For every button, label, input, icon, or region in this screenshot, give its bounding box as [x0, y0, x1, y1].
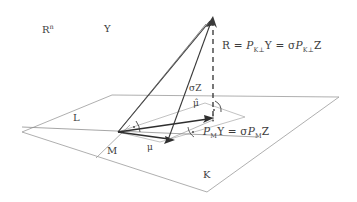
sigma-symbol-2: σ — [240, 125, 247, 137]
plane-k-parallelogram — [22, 95, 339, 192]
label-subspace-m: M — [107, 146, 117, 156]
label-mu-hat: μ̂ — [193, 99, 199, 108]
label-vector-y: Y — [104, 24, 111, 34]
subscript-m-2: M — [255, 132, 262, 140]
subscript-kperp-2: K⊥ — [303, 46, 314, 54]
label-fitted-equation: PMY = σPMZ — [203, 126, 269, 140]
vector-mu-hat-shaft — [118, 119, 208, 132]
equals-sign-1: = — [234, 39, 243, 51]
right-angle-dot-origin — [133, 126, 135, 128]
label-residual-equation: R = PK⊥Y = σPK⊥Z — [222, 40, 322, 54]
ambient-space-exponent: n — [50, 23, 54, 31]
label-subspace-k: K — [203, 170, 210, 180]
residual-arg-y: Y — [265, 39, 272, 51]
label-subspace-l: L — [73, 113, 80, 123]
equals-sign-2: = — [276, 39, 285, 51]
label-ambient-space: Rn — [42, 24, 54, 35]
right-angle-dot-plane — [192, 131, 194, 133]
label-mu: μ — [147, 143, 153, 152]
ambient-space-symbol: R — [42, 24, 50, 35]
fitted-arg-z: Z — [262, 125, 270, 137]
vector-y-arrowhead — [206, 16, 217, 28]
residual-r-symbol: R — [222, 39, 230, 51]
equals-sign-3: = — [228, 125, 237, 137]
right-angle-dot-residual — [213, 109, 215, 111]
diagram-canvas: Rn Y R = PK⊥Y = σPK⊥Z σZ μ̂ μ PMY = σPMZ… — [0, 0, 357, 202]
subscript-kperp-1: K⊥ — [253, 46, 264, 54]
residual-arg-z: Z — [314, 39, 322, 51]
right-angle-arc-origin — [136, 121, 140, 132]
fitted-arg-y: Y — [217, 125, 224, 137]
label-sigma-z: σZ — [189, 84, 201, 93]
projection-operator-kperp-2: P — [295, 39, 302, 51]
vector-y-secondary-edge — [118, 24, 206, 132]
projection-operator-m-2: P — [248, 125, 255, 137]
